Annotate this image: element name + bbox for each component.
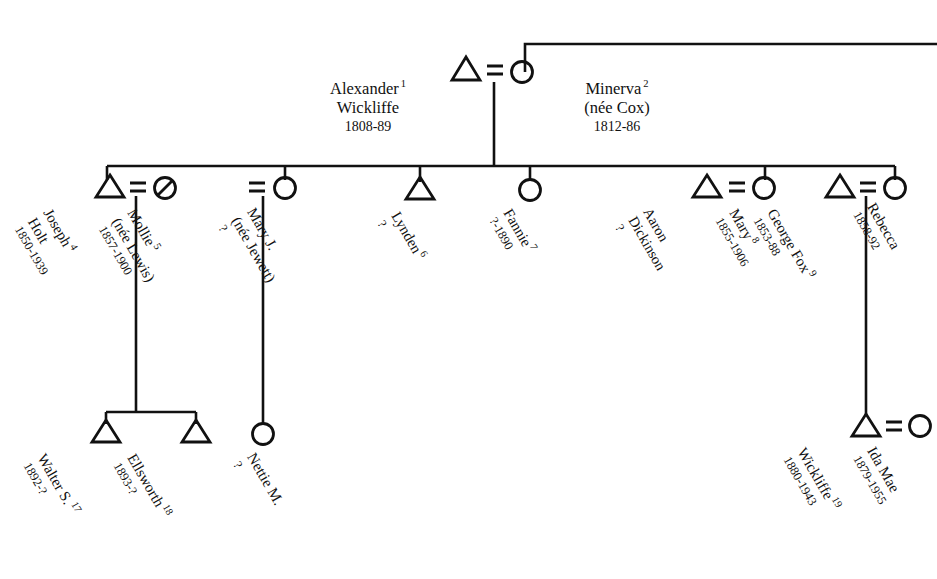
symbol-circle-maryj <box>275 178 296 199</box>
alexander-name: Alexander <box>330 79 399 98</box>
symbol-marriage-maryj <box>249 183 265 191</box>
symbol-triangle-alexander <box>452 57 480 80</box>
symbol-circle-nettie <box>253 424 274 445</box>
minerva-surname: (née Cox) <box>537 98 697 117</box>
symbol-circle-minerva <box>512 62 533 83</box>
ancestry-line-offpage <box>525 44 937 72</box>
label-alexander: Alexander1 Wickliffe 1808-89 <box>283 78 453 136</box>
symbol-marriage-georgefox-rebecca <box>860 183 876 191</box>
pedigree-chart: Alexander1 Wickliffe 1808-89 Minerva2 (n… <box>0 0 937 579</box>
symbol-circle-fannie <box>520 180 541 201</box>
minerva-name: Minerva <box>585 79 641 98</box>
symbol-triangle-joseph <box>96 175 124 197</box>
label-minerva: Minerva2 (née Cox) 1812-86 <box>537 78 697 136</box>
minerva-ref: 2 <box>641 78 648 89</box>
symbol-slash-mollie <box>157 180 173 196</box>
symbol-circle-idamae <box>910 416 931 437</box>
alexander-surname: Wickliffe <box>283 98 453 117</box>
minerva-dates: 1812-86 <box>537 119 697 136</box>
symbol-triangle-wickliffe <box>852 414 880 436</box>
symbol-triangle-georgefox <box>826 175 854 197</box>
symbol-circle-mary8 <box>754 178 775 199</box>
alexander-dates: 1808-89 <box>283 119 453 136</box>
symbol-marriage-alexander-minerva <box>487 66 503 74</box>
symbol-marriage-wickliffe-idamae <box>886 422 902 430</box>
symbol-triangle-aaron <box>693 175 721 197</box>
symbol-circle-rebecca <box>885 178 906 199</box>
alexander-ref: 1 <box>399 78 406 89</box>
symbol-marriage-aaron-mary8 <box>729 183 745 191</box>
symbol-marriage-joseph-mollie <box>130 183 146 191</box>
